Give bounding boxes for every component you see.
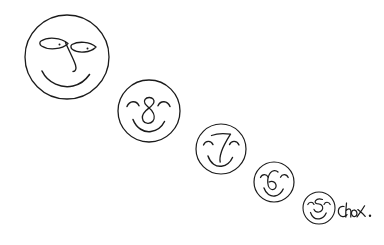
signature-period: [369, 215, 371, 217]
face-1-right-pupil: [87, 48, 89, 50]
paper-background: [0, 0, 384, 245]
drawing-canvas: Five diminishing smiley faces Chox. pen …: [0, 0, 384, 245]
smiley-faces-illustration: [0, 0, 384, 245]
face-1-left-pupil: [59, 43, 61, 45]
